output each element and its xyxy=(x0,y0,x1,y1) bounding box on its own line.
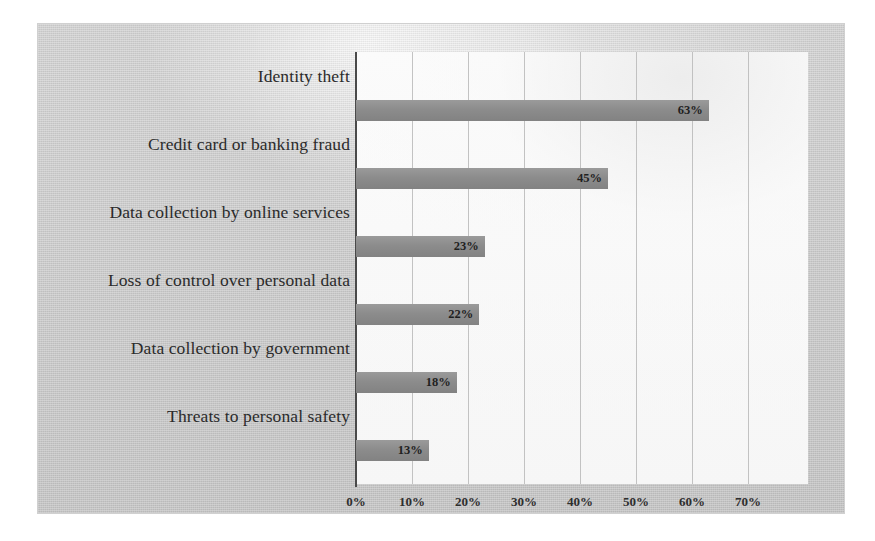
bar-row: Loss of control over personal data22% xyxy=(38,260,844,328)
x-tick-label: 30% xyxy=(494,494,554,510)
bar-value-label: 23% xyxy=(445,236,479,257)
bar-value-label: 13% xyxy=(389,440,423,461)
chart-page: Identity theft63%Credit card or banking … xyxy=(0,0,875,541)
bar-value-label: 22% xyxy=(439,304,473,325)
scanned-page-plate: Identity theft63%Credit card or banking … xyxy=(38,24,844,513)
bar-value-label: 63% xyxy=(669,100,703,121)
category-label: Threats to personal safety xyxy=(50,408,350,426)
x-tick-label: 20% xyxy=(438,494,498,510)
bar-value-label: 18% xyxy=(417,372,451,393)
horizontal-bar-chart: Identity theft63%Credit card or banking … xyxy=(38,24,844,513)
x-tick-label: 50% xyxy=(606,494,666,510)
bar xyxy=(356,100,709,121)
bar-row: Identity theft63% xyxy=(38,56,844,124)
category-label: Identity theft xyxy=(50,68,350,86)
bar-row: Threats to personal safety13% xyxy=(38,396,844,464)
x-tick-label: 40% xyxy=(550,494,610,510)
bar-value-label: 45% xyxy=(568,168,602,189)
x-tick-label: 0% xyxy=(326,494,386,510)
bar-row: Credit card or banking fraud45% xyxy=(38,124,844,192)
category-label: Data collection by online services xyxy=(50,204,350,222)
category-label: Credit card or banking fraud xyxy=(50,136,350,154)
x-tick-label: 10% xyxy=(382,494,442,510)
category-label: Loss of control over personal data xyxy=(50,272,350,290)
bar-row: Data collection by government18% xyxy=(38,328,844,396)
bar-row: Data collection by online services23% xyxy=(38,192,844,260)
category-label: Data collection by government xyxy=(50,340,350,358)
x-tick-label: 60% xyxy=(662,494,722,510)
x-tick-label: 70% xyxy=(718,494,778,510)
